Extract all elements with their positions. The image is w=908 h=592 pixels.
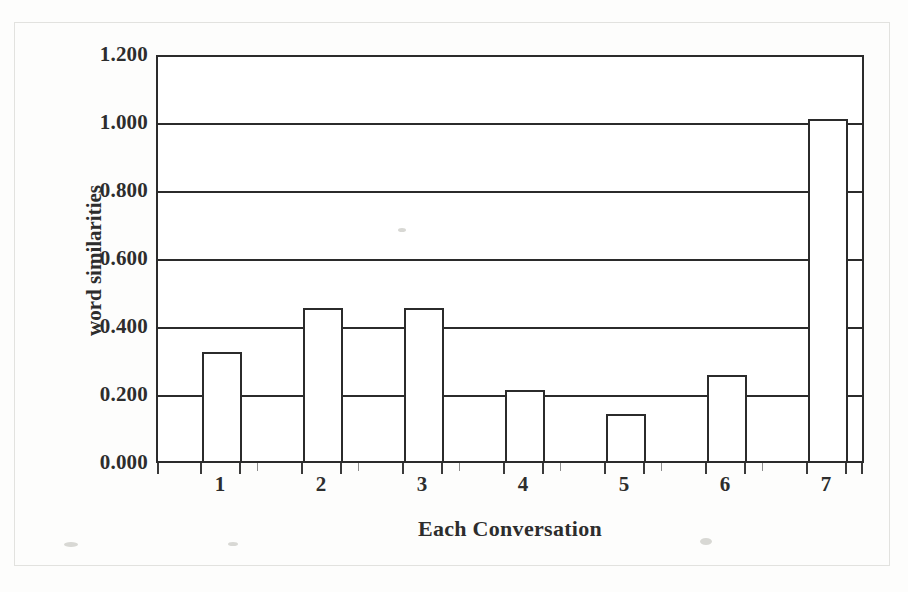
bar-7	[808, 119, 848, 461]
bar-series	[158, 57, 862, 461]
x-tick-label-1: 1	[200, 472, 240, 497]
x-tick-minor-2	[358, 463, 359, 471]
y-tick-label-0400: 0.400	[62, 316, 148, 337]
y-axis-tick-labels: 1.200 1.000 0.800 0.600 0.400 0.200 0.00…	[52, 0, 148, 592]
x-tick-minor-4	[560, 463, 561, 471]
bar-5	[606, 414, 646, 461]
x-tick-label-5: 5	[604, 472, 644, 497]
x-axis-tick-labels: 1 2 3 4 5 6 7	[156, 472, 864, 504]
x-tick-minor-6	[762, 463, 763, 471]
x-tick-minor-1	[257, 463, 258, 471]
x-tick-label-6: 6	[705, 472, 745, 497]
bar-1	[202, 352, 242, 461]
y-tick-label-0000: 0.000	[62, 452, 148, 473]
scan-speck	[398, 228, 406, 232]
y-tick-label-1000: 1.000	[62, 112, 148, 133]
bar-2	[303, 308, 343, 461]
y-tick-label-0200: 0.200	[62, 384, 148, 405]
x-tick-minor-3	[459, 463, 460, 471]
x-tick-label-3: 3	[402, 472, 442, 497]
x-tick-label-7: 7	[806, 472, 846, 497]
scan-speck	[700, 538, 712, 545]
bar-chart: word similarities 1.200 1.000 0.800 0.60…	[0, 0, 908, 592]
y-tick-label-0600: 0.600	[62, 248, 148, 269]
y-tick-label-0800: 0.800	[62, 180, 148, 201]
plot-area	[156, 55, 864, 463]
bar-3	[404, 308, 444, 461]
x-tick-minor-5	[661, 463, 662, 471]
scan-speck	[64, 542, 78, 547]
bar-6	[707, 375, 747, 461]
x-tick-label-2: 2	[301, 472, 341, 497]
scan-speck	[228, 542, 238, 546]
bar-4	[505, 390, 545, 461]
scanned-page: word similarities 1.200 1.000 0.800 0.60…	[0, 0, 908, 592]
y-tick-label-1200: 1.200	[62, 44, 148, 65]
x-axis-title: Each Conversation	[156, 516, 864, 542]
x-tick-label-4: 4	[503, 472, 543, 497]
